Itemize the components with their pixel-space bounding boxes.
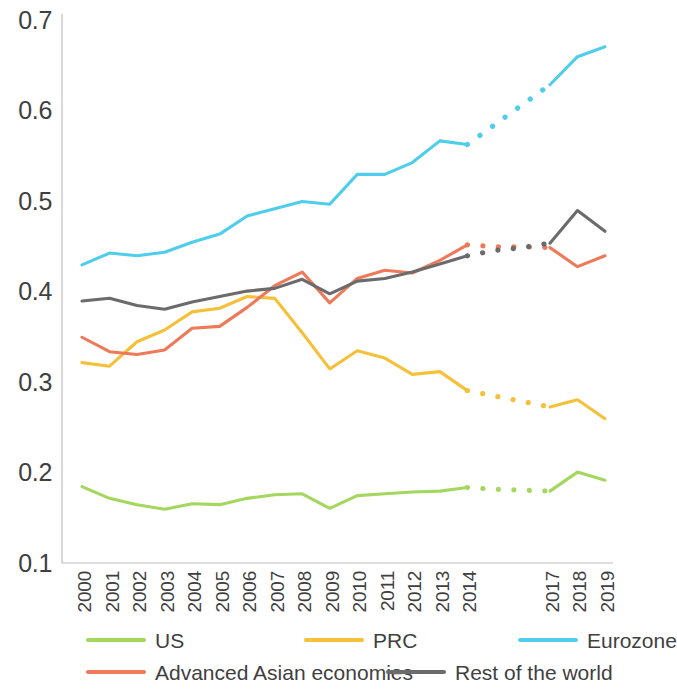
y-tick-label: 0.2 (0, 460, 52, 485)
x-tick-label: 2009 (322, 571, 344, 612)
x-tick-label: 2017 (542, 571, 564, 612)
x-tick-label: 2012 (404, 571, 426, 612)
series-layer (82, 47, 605, 509)
legend-item[interactable]: PRC (304, 630, 417, 651)
x-tick-label: 2004 (184, 571, 206, 612)
x-tick-label: 2000 (74, 571, 96, 612)
series-segment-solid (82, 256, 467, 309)
x-tick-label: 2013 (432, 571, 454, 612)
y-tick-label: 0.4 (0, 279, 52, 304)
legend-label: PRC (373, 630, 417, 651)
x-tick-label: 2006 (239, 571, 261, 612)
x-tick-label: 2002 (129, 571, 151, 612)
legend-item[interactable]: Rest of the world (386, 662, 613, 683)
series-segment-dotted (467, 487, 550, 491)
series-segment-solid (82, 141, 467, 265)
legend-color-swatch (518, 638, 578, 642)
x-tick-label: 2008 (294, 571, 316, 612)
series-segment-solid (550, 400, 605, 419)
series-rest-of-the-world (82, 211, 605, 310)
series-segment-solid (550, 472, 605, 491)
series-us (82, 472, 605, 509)
y-tick-label: 0.7 (0, 8, 52, 33)
y-tick-label: 0.3 (0, 370, 52, 395)
legend-label: Eurozone (587, 630, 677, 651)
x-tick-label: 2014 (459, 571, 481, 612)
legend-color-swatch (86, 638, 146, 642)
series-segment-solid (550, 248, 605, 267)
x-tick-label: 2011 (377, 571, 399, 611)
legend-label: US (155, 630, 184, 651)
series-segment-solid (550, 211, 605, 244)
series-prc (82, 297, 605, 419)
legend-color-swatch (304, 638, 364, 642)
x-tick-label: 2005 (212, 571, 234, 612)
x-tick-label: 2019 (597, 571, 619, 612)
series-segment-solid (82, 297, 467, 391)
legend-item[interactable]: Advanced Asian economies (86, 662, 413, 683)
x-tick-label: 2018 (569, 571, 591, 612)
series-segment-dotted (467, 85, 550, 145)
legend-item[interactable]: US (86, 630, 184, 651)
y-tick-label: 0.1 (0, 551, 52, 576)
x-tick-label: 2003 (157, 571, 179, 612)
plot-axis-frame (62, 14, 613, 563)
y-tick-label: 0.5 (0, 189, 52, 214)
series-segment-solid (82, 487, 467, 510)
series-segment-dotted (467, 245, 550, 248)
y-tick-label: 0.6 (0, 98, 52, 123)
legend-item[interactable]: Eurozone (518, 630, 677, 651)
x-tick-label: 2010 (349, 571, 371, 612)
legend-label: Advanced Asian economies (155, 662, 413, 683)
series-advanced-asian-economies (82, 245, 605, 355)
series-segment-solid (550, 47, 605, 85)
x-tick-label: 2001 (102, 571, 124, 612)
x-tick-label: 2007 (267, 571, 289, 612)
series-eurozone (82, 47, 605, 265)
series-segment-dotted (467, 391, 550, 407)
series-segment-dotted (467, 243, 550, 256)
legend-label: Rest of the world (455, 662, 613, 683)
legend-color-swatch (386, 670, 446, 674)
legend-color-swatch (86, 670, 146, 674)
